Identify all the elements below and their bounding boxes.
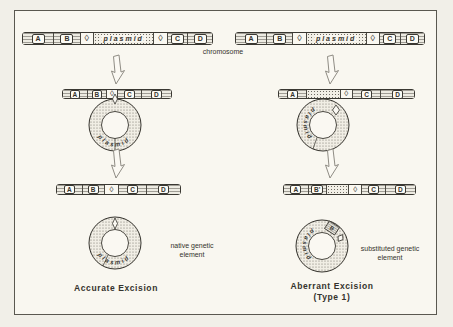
segment-a-label: A (290, 185, 301, 194)
segment-c: C (167, 33, 188, 44)
segment-c: C (118, 185, 145, 194)
attachment-site: ◊ (104, 185, 119, 194)
chromosome-bar-bottom-left: A B ◊ C D (56, 184, 181, 195)
plasmid-remnant-segment (326, 185, 348, 194)
native-element-line1: native genetic (146, 241, 238, 250)
plasmid-label: plasmid (101, 35, 145, 42)
segment-d-label: D (392, 90, 403, 99)
attachment-site: ◊ (153, 33, 166, 44)
segment-d: D (385, 185, 415, 194)
caption-accurate-excision: Accurate Excision (54, 283, 178, 294)
segment-c: C (352, 90, 380, 98)
down-arrow-icon (108, 149, 126, 179)
substituted-element-annotation: substituted genetic element (344, 244, 436, 262)
figure-border (14, 10, 437, 315)
native-element-line2: element (146, 250, 238, 259)
segment-d: D (187, 33, 212, 44)
segment-d-label: D (151, 90, 162, 99)
segment-d: D (380, 90, 414, 98)
down-arrow-icon (108, 55, 126, 85)
diamond-icon: ◊ (297, 34, 301, 43)
segment-a: A (284, 185, 308, 194)
diamond-icon: ◊ (158, 34, 162, 43)
segment-b-label: B (88, 185, 99, 194)
segment-c-label: C (171, 34, 184, 44)
chromosome-bar-top-right: A B ◊ plasmid ◊ C D (235, 32, 425, 45)
segment-a-label: A (32, 34, 45, 44)
caption-aberrant-line2: (Type 1) (269, 292, 395, 303)
down-arrow-icon (322, 149, 340, 179)
segment-c-label: C (361, 90, 372, 99)
diamond-icon: ◊ (371, 34, 375, 43)
native-element-annotation: native genetic element (146, 241, 238, 259)
segment-b-label: B (60, 34, 73, 44)
segment-d: D (146, 185, 180, 194)
plasmid-segment: plasmid (306, 33, 366, 44)
segment-d-label: D (395, 185, 406, 194)
diamond-icon: ◊ (110, 186, 114, 194)
chromosome-bar-top-left: A B ◊ plasmid ◊ C D (22, 32, 213, 45)
native-plasmid-circle: plasmid (84, 212, 146, 274)
segment-c: C (361, 185, 385, 194)
attachment-site: ◊ (366, 33, 379, 44)
diamond-icon: ◊ (353, 186, 357, 194)
chromosome-bar-bottom-right: A B' ◊ C D (283, 184, 416, 195)
caption-aberrant-line1: Aberrant Excision (269, 281, 395, 292)
segment-b-label: B (273, 34, 286, 44)
segment-d-label: D (406, 34, 419, 44)
segment-a-label: A (245, 34, 258, 44)
segment-b: B (82, 185, 104, 194)
segment-d-label: D (158, 185, 169, 194)
attachment-site: ◊ (80, 33, 93, 44)
segment-a: A (236, 33, 266, 44)
attachment-site: ◊ (292, 33, 305, 44)
figure-plasmid-excision: A B ◊ plasmid ◊ C D A B ◊ plasmid ◊ C D … (0, 0, 453, 327)
attachment-site: ◊ (348, 185, 361, 194)
chromosome-label: chromosome (185, 48, 261, 55)
down-arrow-icon (322, 55, 340, 85)
segment-d: D (400, 33, 424, 44)
segment-c-label: C (127, 185, 138, 194)
segment-a: A (57, 185, 82, 194)
plasmid-segment: plasmid (93, 33, 153, 44)
segment-c-label: C (383, 34, 396, 44)
segment-b: B (53, 33, 79, 44)
caption-aberrant-excision: Aberrant Excision (Type 1) (269, 281, 395, 303)
segment-b: B (266, 33, 292, 44)
segment-b-prime-label: B' (311, 185, 323, 194)
plasmid-loop-left: plasmid (84, 94, 146, 156)
segment-a-label: A (70, 90, 81, 99)
segment-a: A (23, 33, 53, 44)
segment-a-label: A (64, 185, 75, 194)
segment-b-prime: B' (308, 185, 326, 194)
segment-c-label: C (368, 185, 379, 194)
segment-d-label: D (194, 34, 207, 44)
segment-c: C (379, 33, 400, 44)
diamond-icon: ◊ (85, 34, 89, 43)
plasmid-label: plasmid (314, 35, 358, 42)
plasmid-loop-right: plasmid (292, 94, 354, 156)
substituted-element-line1: substituted genetic (344, 244, 436, 253)
substituted-element-line2: element (344, 253, 436, 262)
